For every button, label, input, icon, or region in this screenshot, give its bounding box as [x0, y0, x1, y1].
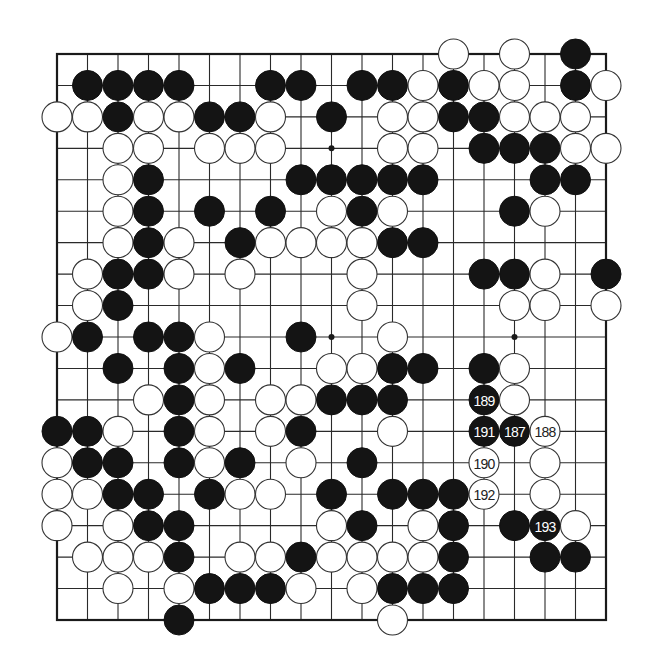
- white-stone: [317, 228, 347, 258]
- white-stone: [439, 39, 469, 69]
- white-stone: [73, 291, 103, 321]
- white-stone: [408, 511, 438, 541]
- white-stone: [225, 479, 255, 509]
- black-stone: [164, 385, 194, 415]
- white-stone: [134, 542, 164, 572]
- black-stone: [164, 70, 194, 100]
- black-stone: [42, 416, 72, 446]
- white-stone: [42, 479, 72, 509]
- white-stone: [286, 385, 316, 415]
- black-stone: [378, 165, 408, 195]
- white-stone: [378, 542, 408, 572]
- white-stone: [408, 133, 438, 163]
- white-stone: [347, 574, 377, 604]
- white-stone: [347, 542, 377, 572]
- white-stone: [561, 511, 591, 541]
- white-stone: [378, 102, 408, 132]
- black-stone: [530, 165, 560, 195]
- black-stone: [103, 291, 133, 321]
- white-stone: [103, 574, 133, 604]
- black-stone: [73, 70, 103, 100]
- black-stone: [469, 259, 499, 289]
- white-stone: [195, 353, 225, 383]
- white-stone: [317, 353, 347, 383]
- black-stone: [378, 574, 408, 604]
- black-stone: [408, 574, 438, 604]
- star-point: [512, 334, 518, 340]
- white-stone: [500, 70, 530, 100]
- black-stone: [195, 574, 225, 604]
- black-stone: [591, 259, 621, 289]
- move-number-label: 191: [474, 424, 496, 440]
- black-stone: [561, 39, 591, 69]
- white-stone: [378, 196, 408, 226]
- black-stone: [439, 542, 469, 572]
- white-stone: [591, 133, 621, 163]
- black-stone: [164, 605, 194, 635]
- black-stone: [317, 102, 347, 132]
- black-stone: [164, 322, 194, 352]
- white-stone: [225, 259, 255, 289]
- white-stone: [408, 102, 438, 132]
- black-stone: [317, 385, 347, 415]
- white-stone: [134, 102, 164, 132]
- black-stone: [134, 322, 164, 352]
- white-stone: [42, 448, 72, 478]
- white-stone: [73, 259, 103, 289]
- white-stone: [286, 448, 316, 478]
- black-stone: [134, 479, 164, 509]
- white-stone: [347, 228, 377, 258]
- black-stone: [103, 102, 133, 132]
- move-number-label: 187: [504, 424, 526, 440]
- white-stone: [500, 291, 530, 321]
- black-stone: [530, 133, 560, 163]
- white-stone: [378, 416, 408, 446]
- black-stone: [164, 448, 194, 478]
- black-stone: [408, 353, 438, 383]
- white-stone: [561, 133, 591, 163]
- black-stone: [561, 70, 591, 100]
- black-stone: [317, 165, 347, 195]
- black-stone: [286, 542, 316, 572]
- white-stone: [42, 511, 72, 541]
- move-number-label: 190: [474, 456, 496, 472]
- black-stone: [256, 196, 286, 226]
- white-stone: [500, 39, 530, 69]
- black-stone: [378, 70, 408, 100]
- black-stone: [500, 196, 530, 226]
- white-stone: [286, 228, 316, 258]
- white-stone: [591, 70, 621, 100]
- white-stone: [500, 385, 530, 415]
- white-stone: [164, 228, 194, 258]
- white-stone: [256, 102, 286, 132]
- white-stone: [164, 102, 194, 132]
- white-stone: [347, 259, 377, 289]
- move-number-label: 193: [535, 519, 557, 535]
- black-stone: [439, 102, 469, 132]
- white-stone: [73, 542, 103, 572]
- black-stone: [164, 542, 194, 572]
- move-number-label: 189: [474, 393, 496, 409]
- white-stone: [347, 353, 377, 383]
- white-stone: [286, 574, 316, 604]
- black-stone: [225, 228, 255, 258]
- white-stone: [134, 385, 164, 415]
- white-stone: [561, 102, 591, 132]
- black-stone: [195, 196, 225, 226]
- black-stone: [286, 416, 316, 446]
- white-stone: [530, 196, 560, 226]
- black-stone: [103, 259, 133, 289]
- black-stone: [500, 259, 530, 289]
- black-stone: [347, 196, 377, 226]
- white-stone: [164, 259, 194, 289]
- star-point: [329, 334, 335, 340]
- white-stone: [317, 542, 347, 572]
- white-stone: [256, 416, 286, 446]
- black-stone: [530, 542, 560, 572]
- black-stone: [378, 479, 408, 509]
- black-stone: [500, 133, 530, 163]
- white-stone: [103, 416, 133, 446]
- white-stone: [591, 291, 621, 321]
- black-stone: [347, 511, 377, 541]
- move-number-label: 188: [535, 424, 557, 440]
